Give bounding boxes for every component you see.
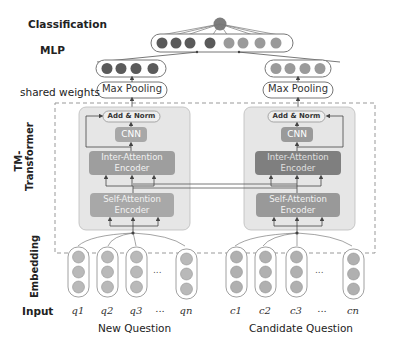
left-embedding-ellipsis: ...: [153, 265, 162, 275]
input-label: Input: [22, 305, 53, 317]
right-self-attention-label: Self-Attention Encoder: [256, 194, 340, 216]
left-inter-attention-line2: Encoder: [89, 163, 175, 174]
candidate-question-caption: Candidate Question: [249, 322, 353, 334]
left-self-attention-label: Self-Attention Encoder: [90, 194, 174, 216]
input-token-qn: qn: [176, 305, 196, 316]
right-inter-attention-label: Inter-Attention Encoder: [255, 152, 341, 174]
tm-transformer-label-line1: TM-: [13, 131, 24, 191]
right-self-attention-line1: Self-Attention: [256, 194, 340, 205]
input-token-c1: c1: [226, 305, 246, 316]
right-add-norm-label: Add & Norm: [268, 111, 325, 122]
input-token-cn: cn: [343, 305, 363, 316]
embedding-label: Embedding: [29, 238, 43, 298]
left-cnn-label: CNN: [115, 128, 147, 141]
input-token-ellipsis-right: ...: [312, 303, 332, 314]
mlp-label: MLP: [40, 44, 65, 56]
left-inter-attention-label: Inter-Attention Encoder: [89, 152, 175, 174]
right-embeddings: [226, 247, 364, 299]
left-self-attention-line2: Encoder: [90, 205, 174, 216]
tm-transformer-diagram: Classification MLP shared weights TM- Tr…: [0, 0, 397, 351]
right-inter-attention-line1: Inter-Attention: [255, 152, 341, 163]
left-self-attention-line1: Self-Attention: [90, 194, 174, 205]
left-add-norm-label: Add & Norm: [103, 111, 160, 122]
input-token-ellipsis-left: ...: [150, 303, 170, 314]
right-max-pooling-label: Max Pooling: [263, 83, 333, 94]
tm-transformer-label: TM- Transformer: [13, 131, 39, 191]
input-token-q3: q3: [126, 305, 146, 316]
input-token-c3: c3: [286, 305, 306, 316]
left-max-pooling-label: Max Pooling: [97, 83, 167, 94]
new-question-caption: New Question: [98, 322, 171, 334]
left-embeddings: [68, 247, 197, 299]
input-token-c2: c2: [255, 305, 275, 316]
classification-label: Classification: [28, 18, 107, 30]
right-embedding-ellipsis: ...: [315, 265, 324, 275]
right-cnn-label: CNN: [281, 128, 313, 141]
shared-weights-label: shared weights: [20, 86, 100, 98]
right-inter-attention-line2: Encoder: [255, 163, 341, 174]
right-self-attention-line2: Encoder: [256, 205, 340, 216]
tm-transformer-label-line2: Transformer: [24, 131, 35, 191]
left-inter-attention-line1: Inter-Attention: [89, 152, 175, 163]
input-token-q2: q2: [97, 305, 117, 316]
input-token-q1: q1: [68, 305, 88, 316]
